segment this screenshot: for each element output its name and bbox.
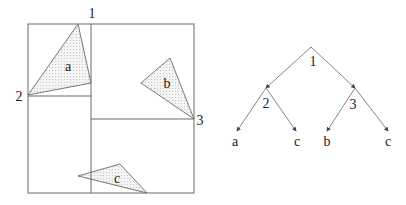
tree-leaf-c: c [294, 134, 300, 149]
tree-node-3: 3 [350, 97, 357, 112]
triangle-label-b: b [164, 76, 171, 91]
split-label-2: 2 [16, 89, 23, 104]
split-label-1: 1 [89, 6, 96, 21]
tree-edge-3-leaf3 [355, 88, 388, 131]
triangle-label-a: a [65, 59, 72, 74]
tree-node-2: 2 [263, 96, 270, 111]
tree-leaf-a: a [232, 134, 239, 149]
tree-node-1: 1 [310, 54, 317, 69]
tree-leaf-b: b [324, 134, 331, 149]
tree-edge-1-2 [266, 47, 311, 88]
space-partition: abc123 [16, 6, 204, 193]
tree-edge-2-leaf1 [266, 88, 296, 131]
triangle-c [78, 164, 147, 193]
bsp-diagram: abc123 123acbc [0, 0, 406, 205]
triangle-a [28, 24, 91, 95]
bsp-tree: 123acbc [232, 47, 391, 149]
triangle-label-c: c [114, 171, 120, 186]
split-label-3: 3 [197, 113, 204, 128]
tree-leaf-c: c [385, 134, 391, 149]
tree-edge-1-3 [311, 47, 355, 88]
